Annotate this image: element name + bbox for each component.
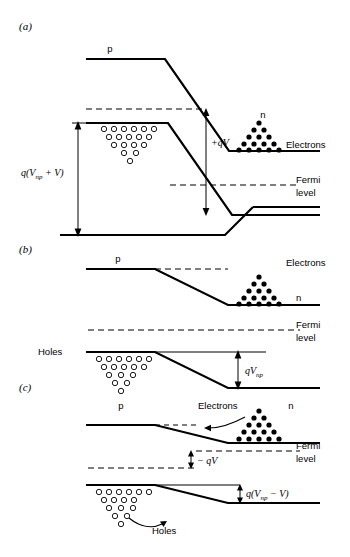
panel-b-fermi-label-line2: level xyxy=(296,332,316,343)
panel-a-fermi-label-line1: Fermi xyxy=(296,174,320,185)
panel-c-conduction-band xyxy=(86,425,320,443)
panel-a-total-barrier-suffix: + V) xyxy=(42,167,64,179)
panel-a-p-label: p xyxy=(107,43,112,54)
panel-a-bias-label: +qV xyxy=(211,137,231,148)
panel-a-bias-arrow xyxy=(203,108,210,216)
panel-c-label: (c) xyxy=(19,381,32,394)
panel-c-bias-label: − qV xyxy=(197,455,219,466)
panel-b-barrier-arrow xyxy=(235,350,242,390)
panel-b-hole-cloud xyxy=(96,356,151,393)
panel-b-electron-cloud xyxy=(236,274,281,306)
panel-c-electron-cloud xyxy=(236,408,281,441)
panel-c-p-label: p xyxy=(118,400,123,411)
panel-b-barrier-arrow-head-up xyxy=(235,350,242,359)
panel-a-electrons-label: Electrons xyxy=(286,139,326,150)
panel-a-bias-arrow-head-down xyxy=(203,208,210,216)
panel-a-fermi-label-line2: level xyxy=(296,187,316,198)
panel-a-lower-band-baseline xyxy=(60,207,253,235)
panel-c-barrier-arrow xyxy=(237,484,243,504)
panel-a-total-barrier-arrow xyxy=(75,121,82,237)
band-diagram-figure: (a) +qV q(Vnp + V) p xyxy=(0,0,350,557)
figure-root: (a) +qV q(Vnp + V) p xyxy=(0,0,350,557)
panel-b-electrons-label: Electrons xyxy=(286,257,326,268)
panel-b-barrier-label: qVnp xyxy=(245,365,264,379)
panel-b-p-label: p xyxy=(115,253,120,264)
panel-a-n-label: n xyxy=(260,109,265,120)
panel-c: (c) − qV q(Vnp − V) p xyxy=(19,381,320,536)
panel-c-hole-cloud xyxy=(96,489,151,526)
panel-a: (a) +qV q(Vnp + V) p xyxy=(19,20,326,237)
panel-b-barrier-sub: np xyxy=(256,371,264,379)
panel-c-electrons-label: Electrons xyxy=(198,400,238,411)
panel-a-total-barrier-label: q(Vnp + V) xyxy=(21,167,64,181)
panel-c-fermi-label-line1: Fermi xyxy=(296,440,320,451)
panel-b-holes-label: Holes xyxy=(38,346,63,357)
panel-a-hole-cloud xyxy=(101,126,156,163)
panel-c-barrier-label: q(Vnp − V) xyxy=(246,488,289,502)
panel-c-fermi-label-line2: level xyxy=(296,453,316,464)
panel-b: (b) qVnp p n Electrons Holes Fermi le xyxy=(19,243,326,394)
panel-c-bias-arrow xyxy=(188,450,194,469)
panel-c-hole-arrow-curve xyxy=(129,518,162,527)
panel-c-electron-arrow-curve xyxy=(209,417,245,428)
panel-b-label: (b) xyxy=(19,243,32,256)
panel-c-barrier-suffix: − V) xyxy=(267,488,289,500)
panel-c-bias-arrow-head-up xyxy=(188,450,194,457)
panel-b-conduction-band xyxy=(86,269,320,305)
panel-c-electron-arrow-head xyxy=(204,425,211,431)
panel-c-electron-injection-arrow xyxy=(204,417,245,431)
panel-b-fermi-label-line1: Fermi xyxy=(296,319,320,330)
panel-a-electron-cloud xyxy=(236,120,281,152)
panel-a-bias-arrow-head-up xyxy=(203,108,210,116)
panel-b-n-label: n xyxy=(296,292,301,303)
panel-c-n-label: n xyxy=(288,400,293,411)
panel-a-total-barrier-head-up xyxy=(75,121,82,130)
panel-a-label: (a) xyxy=(19,20,32,33)
